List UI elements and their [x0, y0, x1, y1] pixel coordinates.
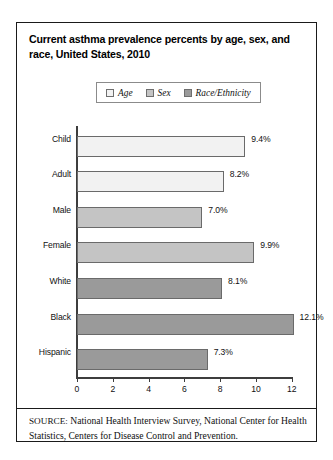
x-axis-tick-label: 4 [146, 384, 151, 394]
x-axis-tick-label: 2 [110, 384, 115, 394]
figure-page: Current asthma prevalence percents by ag… [0, 0, 333, 460]
chart-bar [77, 171, 224, 192]
bar-category-label: Male [17, 205, 71, 215]
legend-swatch-icon [106, 89, 114, 97]
bar-value-label: 7.3% [214, 347, 233, 357]
x-axis-tick [256, 377, 257, 382]
chart-bar [77, 349, 208, 370]
legend-swatch-icon [184, 89, 192, 97]
chart-bar-row: Black12.1% [17, 306, 318, 342]
bar-category-label: Adult [17, 169, 71, 179]
bar-value-label: 8.2% [230, 169, 249, 179]
chart-bar-row: Child9.4% [17, 128, 318, 164]
chart-bar [77, 136, 245, 157]
x-axis-tick [220, 377, 221, 382]
chart-bar [77, 278, 222, 299]
legend-item: Sex [146, 88, 171, 98]
chart-bar-row: Hispanic7.3% [17, 342, 318, 378]
x-axis-tick-label: 10 [251, 384, 261, 394]
bar-value-label: 9.4% [251, 134, 270, 144]
source-kicker: SOURCE: [29, 416, 68, 426]
x-axis-tick [292, 377, 293, 382]
legend-label: Age [118, 88, 133, 98]
legend-label: Race/Ethnicity [196, 88, 251, 98]
chart-legend: AgeSexRace/Ethnicity [96, 82, 261, 103]
chart-bar-row: White8.1% [17, 270, 318, 306]
x-axis-tick [149, 377, 150, 382]
source-note: SOURCE: National Health Interview Survey… [29, 414, 307, 442]
source-divider [17, 408, 316, 409]
x-axis-tick [184, 377, 185, 382]
x-axis-tick-label: 12 [287, 384, 297, 394]
legend-swatch-icon [146, 89, 154, 97]
bar-category-label: Child [17, 134, 71, 144]
x-axis-tick [113, 377, 114, 382]
legend-item: Race/Ethnicity [184, 88, 251, 98]
x-axis-tick-label: 6 [182, 384, 187, 394]
legend-label: Sex [158, 88, 171, 98]
page-title: Current asthma prevalence percents by ag… [29, 32, 301, 61]
chart-bar [77, 242, 254, 263]
chart-plot-area: Child9.4%Adult8.2%Male7.0%Female9.9%Whit… [17, 118, 318, 403]
bar-category-label: Black [17, 312, 71, 322]
bar-category-label: White [17, 276, 71, 286]
bar-value-label: 12.1% [300, 312, 324, 322]
legend-item: Age [106, 88, 133, 98]
bar-value-label: 7.0% [208, 205, 227, 215]
bar-category-label: Female [17, 240, 71, 250]
x-axis-tick-label: 8 [218, 384, 223, 394]
bar-value-label: 8.1% [228, 276, 247, 286]
chart-bar [77, 207, 202, 228]
chart-bar-row: Male7.0% [17, 199, 318, 235]
chart-bar-row: Female9.9% [17, 235, 318, 271]
bar-category-label: Hispanic [17, 347, 71, 357]
x-axis-tick [77, 377, 78, 382]
bar-value-label: 9.9% [260, 240, 279, 250]
chart-bar-row: Adult8.2% [17, 164, 318, 200]
figure-container: Current asthma prevalence percents by ag… [16, 22, 317, 442]
chart-bar [77, 314, 294, 335]
x-axis-tick-label: 0 [75, 384, 80, 394]
source-text: National Health Interview Survey, Nation… [29, 415, 307, 441]
